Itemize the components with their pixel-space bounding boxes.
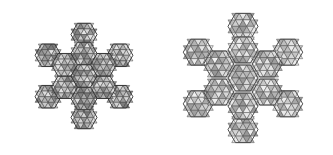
compact-cluster-graphic xyxy=(0,0,166,155)
polyhedron-compact-figure xyxy=(0,0,166,155)
polyhedron-expanded-figure xyxy=(166,0,333,155)
triangulated-hexagon xyxy=(228,117,258,143)
expanded-cluster-graphic xyxy=(166,0,333,155)
triangulated-hexagon xyxy=(228,13,258,39)
